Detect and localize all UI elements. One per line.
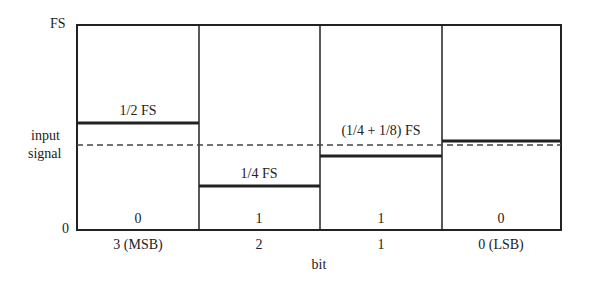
x-tick-bit3: 3 (MSB) (113, 238, 162, 252)
x-tick-bit1: 1 (378, 238, 385, 252)
result-bit2: 1 (256, 212, 263, 226)
threshold-label-bit2: 1/4 FS (241, 167, 278, 181)
result-bit1: 1 (378, 212, 385, 226)
y-label-fs: FS (50, 17, 66, 31)
result-bit0: 0 (498, 212, 505, 226)
plot-frame (77, 25, 561, 230)
signal-label: signal (28, 147, 61, 161)
x-tick-bit0: 0 (LSB) (478, 238, 524, 252)
y-label-zero: 0 (62, 222, 69, 236)
threshold-label-bit1: (1/4 + 1/8) FS (341, 124, 420, 138)
x-tick-bit2: 2 (256, 238, 263, 252)
x-axis-title: bit (312, 258, 327, 272)
input-label: input (31, 129, 60, 143)
result-bit3: 0 (135, 212, 142, 226)
threshold-label-bit3: 1/2 FS (120, 104, 157, 118)
